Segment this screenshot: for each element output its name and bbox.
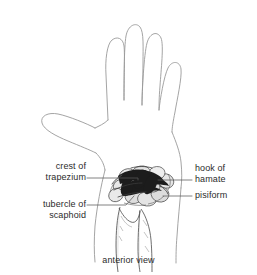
label-crest-of-trapezium-line2: trapezium: [46, 172, 86, 183]
label-pisiform-line1: pisiform: [195, 190, 227, 201]
label-tubercle-of-scaphoid-line2: scaphoid: [43, 210, 86, 221]
figure-caption: anterior view: [0, 255, 257, 265]
label-tubercle-of-scaphoid: tubercle of scaphoid: [43, 199, 86, 221]
hand-anatomy-illustration: [0, 0, 257, 275]
carpal-bones-group: [106, 165, 176, 207]
hand-outline: [42, 25, 182, 263]
label-crest-of-trapezium: crest of trapezium: [46, 161, 86, 183]
label-pisiform: pisiform: [195, 190, 227, 201]
label-hook-of-hamate: hook of hamate: [195, 163, 226, 185]
label-hook-of-hamate-line2: hamate: [195, 174, 226, 185]
label-crest-of-trapezium-line1: crest of: [46, 161, 86, 172]
label-hook-of-hamate-line1: hook of: [195, 163, 226, 174]
label-tubercle-of-scaphoid-line1: tubercle of: [43, 199, 86, 210]
anatomical-figure: crest of trapezium tubercle of scaphoid …: [0, 0, 257, 275]
